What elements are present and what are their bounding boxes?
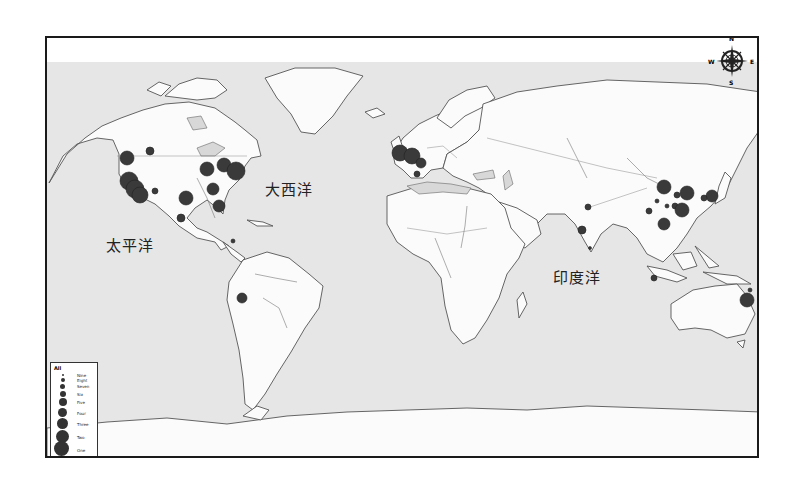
legend-item: Four [51, 408, 97, 418]
compass-e: E [750, 58, 754, 65]
atlantic-ocean-label: 大西洋 [265, 178, 313, 199]
pacific-ocean-label: 太平洋 [106, 234, 154, 255]
greenland [265, 68, 363, 134]
compass-rose: N S W E [712, 41, 752, 81]
africa [387, 186, 525, 344]
arctic-islands [165, 78, 227, 100]
legend-item: Three [51, 418, 97, 430]
legend-item: Six [51, 391, 97, 398]
antarctica [47, 406, 759, 458]
legend-item: Nine [51, 373, 97, 377]
compass-rose-icon [712, 41, 752, 81]
legend-item: Seven [51, 384, 97, 390]
south-america [227, 252, 323, 410]
legend-item: One [51, 441, 97, 457]
compass-s: S [729, 79, 733, 86]
map-frame: 太平洋 大西洋 印度洋 N S W E All Nine Eight Seven [45, 36, 759, 458]
compass-w: W [708, 58, 715, 65]
australia [671, 284, 755, 338]
compass-n: N [729, 36, 734, 42]
map-legend: All Nine Eight Seven Six Five Four Three [50, 362, 98, 458]
legend-item: Eight [51, 378, 97, 383]
indian-ocean-label: 印度洋 [553, 266, 601, 287]
mediterranean [407, 182, 471, 194]
legend-title: All [54, 365, 61, 371]
legend-item: Five [51, 398, 97, 407]
